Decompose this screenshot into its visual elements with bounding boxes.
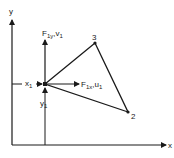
x-axis: x bbox=[12, 141, 172, 150]
force-x-label: F1x,u1 bbox=[81, 80, 103, 90]
node-2: 2 bbox=[126, 110, 136, 121]
triangle-element bbox=[45, 43, 128, 112]
force-y-label: F1y,v1 bbox=[42, 29, 63, 39]
node-2-label: 2 bbox=[131, 112, 136, 121]
force-x-arrow: F1x,u1 bbox=[45, 80, 103, 90]
node-1 bbox=[43, 82, 47, 86]
fem-triangle-diagram: y x y1 x1 F1y bbox=[0, 0, 174, 158]
x-axis-label: x bbox=[168, 141, 172, 150]
y-axis-label: y bbox=[9, 7, 13, 16]
y-axis: y bbox=[9, 7, 13, 145]
y1-label: y1 bbox=[40, 99, 48, 109]
y1-dimension: y1 bbox=[40, 88, 48, 145]
node-3: 3 bbox=[92, 33, 97, 45]
x1-label: x1 bbox=[25, 79, 33, 89]
x1-dimension: x1 bbox=[12, 79, 42, 89]
force-y-arrow: F1y,v1 bbox=[42, 29, 63, 84]
node-3-label: 3 bbox=[92, 33, 97, 42]
